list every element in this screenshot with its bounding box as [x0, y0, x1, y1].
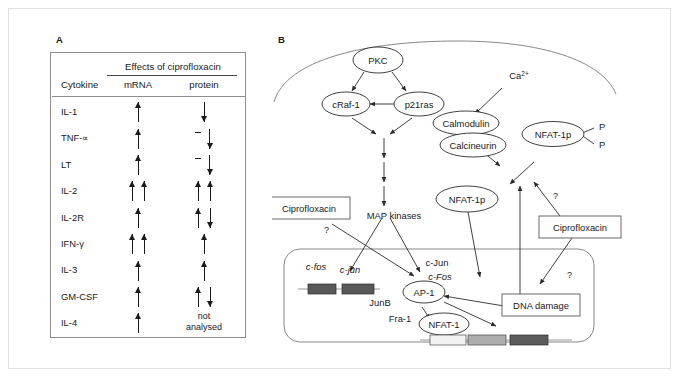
column-header-protein: protein	[171, 79, 237, 90]
effect-glyph-arrow-up	[195, 208, 202, 228]
node-ciprofloxacin-left-label: Ciprofloxacin	[282, 203, 336, 214]
cell-mrna-effect	[107, 284, 169, 310]
edge-pkc-p21ras	[392, 72, 406, 91]
effect-glyph-arrow-up	[135, 208, 142, 228]
dna-box-1	[430, 335, 466, 345]
table-row: IL-2R	[51, 205, 245, 231]
cell-mrna-effect	[107, 99, 169, 125]
mrna-glyph-group	[107, 257, 169, 283]
cell-protein-effect	[171, 99, 237, 125]
edge-p21ras-down	[390, 118, 412, 134]
effect-glyph-arrow-up	[129, 234, 136, 254]
table-spanning-header: Effects of ciprofloxacin	[109, 61, 237, 72]
node-calcium-label: Ca2+	[509, 70, 529, 82]
mrna-glyph-group	[107, 152, 169, 178]
mrna-glyph-group	[107, 205, 169, 231]
gene-cfos-label: c-fos	[306, 261, 327, 272]
effect-glyph-arrow-down	[201, 102, 208, 122]
edge-pkc-craf1	[352, 72, 364, 91]
phosphate-bottom-label: P	[599, 139, 605, 150]
column-header-mrna: mRNA	[107, 79, 169, 90]
effect-glyph-arrow-up	[129, 181, 136, 201]
protein-glyph-group	[171, 205, 237, 231]
edge-dnadamage-ap1	[444, 296, 504, 306]
effect-glyph-arrow-up	[135, 155, 142, 175]
protein-glyph-group	[171, 125, 237, 151]
edge-nfatp-nfat	[510, 162, 534, 184]
cell-cytokine-name: IL-4	[61, 317, 77, 328]
table-row: IL-2	[51, 178, 245, 204]
cell-cytokine-name: IFN-γ	[61, 238, 84, 249]
mrna-glyph-group	[107, 125, 169, 151]
protein-cjun-label: c-Jun	[426, 257, 449, 268]
effect-glyph-arrow-up	[201, 234, 208, 254]
node-calmodulin-label: Calmodulin	[443, 118, 490, 129]
effect-glyph-arrow-up	[141, 234, 148, 254]
cell-mrna-effect	[107, 231, 169, 257]
effect-glyph-arrow-up	[135, 261, 142, 281]
effect-glyph-arrow-down	[207, 208, 214, 228]
effect-glyph-arrow-up	[141, 181, 148, 201]
panel-b: B	[272, 34, 668, 346]
node-craf1-label: cRaf-1	[332, 99, 360, 110]
signalling-pathway-diagram: PKC cRaf-1 p21ras Calmodulin Calcineurin…	[272, 34, 668, 346]
table-row: IL-1	[51, 99, 245, 125]
mrna-glyph-group	[107, 178, 169, 204]
table-body: IL-1TNF-∝LTIL-2IL-2RIFN-γIL-3GM-CSFIL-4n…	[51, 99, 245, 337]
cell-mrna-effect	[107, 257, 169, 283]
node-nfat1p-label: NFAT-1p	[449, 194, 485, 205]
cell-mrna-effect	[107, 178, 169, 204]
panel-a: A Effects of ciprofloxacin Cytokine mRNA…	[46, 34, 258, 344]
cell-protein-effect	[171, 205, 237, 231]
effect-glyph-dash	[195, 155, 201, 175]
cell-protein-effect	[171, 152, 237, 178]
dna-box-3	[510, 335, 548, 345]
effect-glyph-arrow-up	[195, 181, 202, 201]
protein-glyph-group	[171, 152, 237, 178]
gene-box-cjun	[342, 284, 374, 294]
question-mark-right-upper: ?	[553, 191, 558, 201]
effect-glyph-arrow-up	[135, 129, 142, 149]
mrna-glyph-group	[107, 99, 169, 125]
table-row: IL-3	[51, 257, 245, 283]
table-row: IFN-γ	[51, 231, 245, 257]
cell-cytokine-name: LT	[61, 159, 71, 170]
table-row: GM-CSF	[51, 284, 245, 310]
cell-cytokine-name: IL-1	[61, 106, 77, 117]
effect-glyph-arrow-down	[206, 129, 213, 149]
effect-glyph-arrow-up	[135, 313, 142, 333]
effect-glyph-dash	[195, 129, 201, 149]
question-mark-left: ?	[324, 225, 329, 235]
protein-junb-label: JunB	[369, 297, 390, 308]
cell-cytokine-name: IL-2R	[61, 212, 84, 223]
cell-cytokine-name: GM-CSF	[61, 291, 98, 302]
cell-protein-effect	[171, 284, 237, 310]
node-p21ras-label: p21ras	[405, 99, 434, 110]
protein-glyph-group	[171, 257, 237, 283]
table-row: TNF-∝	[51, 125, 245, 151]
cell-protein-not-analysed: notanalysed	[171, 311, 237, 333]
gene-cjun-label: c-jun	[340, 264, 360, 275]
figure-root: A Effects of ciprofloxacin Cytokine mRNA…	[0, 0, 681, 379]
mrna-glyph-group	[107, 231, 169, 257]
node-pkc-label: PKC	[368, 55, 388, 66]
cell-cytokine-name: TNF-∝	[61, 132, 88, 143]
table-row: IL-4notanalysed	[51, 310, 245, 336]
effect-glyph-arrow-up	[135, 287, 142, 307]
effect-glyph-arrow-up	[207, 181, 214, 201]
panel-a-label: A	[56, 34, 63, 45]
phosphate-top-label: P	[599, 121, 605, 132]
effect-glyph-arrow-up	[195, 287, 202, 307]
spanning-header-rule	[107, 75, 237, 76]
cell-mrna-effect	[107, 125, 169, 151]
effect-glyph-arrow-down	[206, 155, 213, 175]
dna-box-2	[468, 335, 506, 345]
effect-glyph-arrow-up	[201, 261, 208, 281]
node-calcineurin-label: Calcineurin	[450, 140, 497, 151]
column-header-cytokine: Cytokine	[61, 79, 98, 90]
cell-cytokine-name: IL-2	[61, 185, 77, 196]
edge-calcium-calmodulin	[475, 88, 502, 114]
protein-cfos-label: c-Fos	[428, 271, 452, 282]
node-ap1-label: AP-1	[414, 287, 435, 298]
protein-glyph-group	[171, 231, 237, 257]
